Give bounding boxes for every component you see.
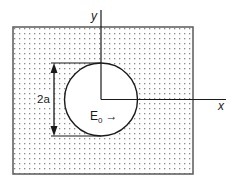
field-symbol: E	[90, 109, 98, 123]
y-axis-label: y	[90, 9, 98, 23]
field-subscript: 0	[98, 116, 103, 125]
field-arrow-icon: →	[105, 109, 117, 123]
x-axis-label: x	[217, 99, 225, 113]
diameter-label: 2a	[37, 93, 50, 105]
cavity-field-diagram: y x 2a E0→	[0, 0, 241, 184]
